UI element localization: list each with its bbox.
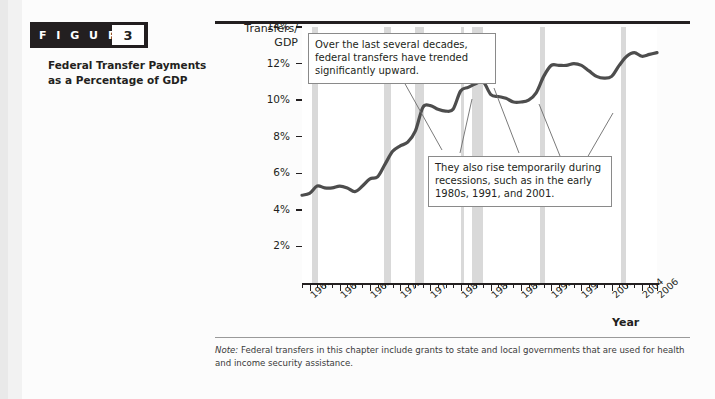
y-tick-label: 8% bbox=[254, 130, 290, 142]
y-tick-label: 4% bbox=[254, 203, 290, 215]
x-tick-minor bbox=[574, 284, 575, 288]
y-tick-label: 2% bbox=[254, 239, 290, 251]
figure-number: 3 bbox=[112, 25, 144, 45]
y-tick-label: 14% bbox=[254, 20, 290, 32]
note-divider bbox=[215, 337, 690, 338]
x-tick-minor bbox=[302, 284, 303, 288]
figure-note: Note: Federal transfers in this chapter … bbox=[215, 344, 685, 370]
y-tick-label: 10% bbox=[254, 93, 290, 105]
y-tick-label: 6% bbox=[254, 166, 290, 178]
page-left-rail-accent bbox=[0, 0, 8, 399]
figure-page: F I G U R E 3 Federal Transfer Payments … bbox=[0, 0, 715, 399]
x-tick-minor bbox=[393, 284, 394, 288]
x-tick-minor bbox=[544, 284, 545, 288]
y-tick-label: 12% bbox=[254, 57, 290, 69]
note-prefix: Note: bbox=[215, 345, 238, 355]
x-tick-minor bbox=[604, 284, 605, 288]
callout-recessions: They also rise temporarily during recess… bbox=[428, 156, 612, 207]
note-text: Federal transfers in this chapter includ… bbox=[215, 345, 685, 368]
x-axis-title: Year bbox=[612, 316, 639, 329]
x-tick-minor bbox=[423, 284, 424, 288]
x-tick-minor bbox=[453, 284, 454, 288]
figure-badge: F I G U R E 3 bbox=[30, 22, 148, 48]
figure-title: Federal Transfer Payments as a Percentag… bbox=[48, 58, 218, 88]
callout-trend: Over the last several decades, federal t… bbox=[308, 33, 496, 84]
